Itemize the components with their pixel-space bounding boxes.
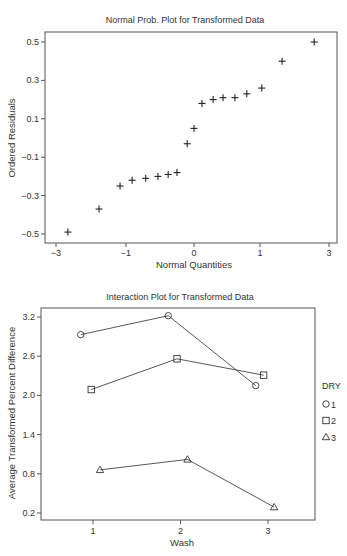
legend-item-2: 2 bbox=[323, 416, 336, 426]
plus-marker bbox=[174, 169, 181, 176]
plus-marker bbox=[154, 173, 161, 180]
plus-marker bbox=[129, 177, 136, 184]
x-tick-label: 3 bbox=[265, 526, 270, 536]
x-tick-label: 1 bbox=[257, 248, 262, 258]
plus-marker bbox=[191, 125, 198, 132]
normal-prob-plot: Normal Prob. Plot for Transformed Data 0… bbox=[6, 15, 337, 270]
x-tick-label: −1 bbox=[121, 248, 131, 258]
plus-marker bbox=[184, 140, 191, 147]
plus-marker bbox=[220, 94, 227, 101]
chart2-x-axis: 123 bbox=[90, 520, 270, 536]
x-tick-label: 3 bbox=[326, 248, 331, 258]
chart2-y-axis-label: Average Transformed Percent Difference bbox=[6, 327, 17, 499]
y-tick-label: 1.4 bbox=[22, 430, 35, 440]
series-line bbox=[81, 316, 256, 386]
series-dry-1 bbox=[78, 312, 259, 388]
series-dry-3 bbox=[96, 456, 278, 510]
x-tick-label: −3 bbox=[51, 248, 61, 258]
x-tick-label: 1 bbox=[90, 526, 95, 536]
y-tick-label: 3.2 bbox=[22, 312, 35, 322]
chart1-y-axis: 0.50.30.1−0.1−0.3−0.5 bbox=[21, 37, 45, 239]
square-marker bbox=[88, 386, 94, 392]
chart1-x-axis: −3−1013 bbox=[51, 243, 332, 258]
plus-marker bbox=[198, 100, 205, 107]
chart1-title: Normal Prob. Plot for Transformed Data bbox=[106, 15, 265, 25]
interaction-plot: Interaction Plot for Transformed Data 3.… bbox=[6, 292, 341, 548]
y-tick-label: 2.6 bbox=[22, 351, 35, 361]
plus-marker bbox=[311, 39, 318, 46]
chart-figure: Normal Prob. Plot for Transformed Data 0… bbox=[0, 0, 347, 556]
chart1-y-axis-label: Ordered Residuals bbox=[6, 98, 17, 177]
chart1-plot-frame bbox=[45, 32, 337, 243]
legend-item-1: 1 bbox=[323, 400, 336, 410]
x-tick-label: 0 bbox=[191, 248, 196, 258]
y-tick-label: −0.1 bbox=[21, 152, 39, 162]
legend-item-label: 2 bbox=[331, 416, 336, 426]
x-tick-label: 2 bbox=[178, 526, 183, 536]
plus-marker bbox=[64, 229, 71, 236]
y-tick-label: 0.1 bbox=[26, 114, 39, 124]
plus-marker bbox=[117, 183, 124, 190]
legend-item-label: 3 bbox=[331, 433, 336, 443]
chart2-x-axis-label: Wash bbox=[170, 537, 194, 548]
legend-item-label: 1 bbox=[331, 400, 336, 410]
y-tick-label: 0.2 bbox=[22, 508, 35, 518]
y-tick-label: −0.3 bbox=[21, 191, 39, 201]
plus-marker bbox=[279, 58, 286, 65]
legend-title: DRY bbox=[322, 381, 341, 391]
chart2-title: Interaction Plot for Transformed Data bbox=[106, 292, 254, 302]
series-line bbox=[100, 459, 274, 507]
plus-marker bbox=[165, 171, 172, 178]
plus-marker bbox=[210, 96, 217, 103]
chart2-series bbox=[78, 312, 278, 509]
y-tick-label: −0.5 bbox=[21, 229, 39, 239]
chart1-points bbox=[64, 39, 317, 236]
plus-marker bbox=[231, 94, 238, 101]
series-line bbox=[91, 359, 263, 390]
plus-marker bbox=[243, 90, 250, 97]
triangle-marker bbox=[322, 433, 329, 439]
series-dry-2 bbox=[88, 356, 267, 393]
plus-marker bbox=[258, 85, 265, 92]
y-tick-label: 2.0 bbox=[22, 390, 35, 400]
y-tick-label: 0.3 bbox=[26, 75, 39, 85]
chart1-x-axis-label: Normal Quantities bbox=[156, 259, 232, 270]
circle-marker bbox=[323, 401, 329, 407]
legend-item-3: 3 bbox=[322, 433, 336, 443]
y-tick-label: 0.5 bbox=[26, 37, 39, 47]
square-marker bbox=[323, 417, 329, 423]
chart2-plot-frame bbox=[41, 308, 315, 520]
plus-marker bbox=[142, 175, 149, 182]
y-tick-label: 0.8 bbox=[22, 469, 35, 479]
chart2-y-axis: 3.22.62.01.40.80.2 bbox=[22, 312, 41, 518]
plus-marker bbox=[96, 206, 103, 213]
chart2-legend: DRY 123 bbox=[322, 381, 341, 443]
